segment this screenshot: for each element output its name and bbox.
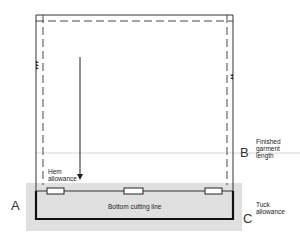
tuck-marker-left [47, 188, 64, 194]
left-notch-icon [36, 61, 39, 69]
tuck-marker-right [205, 188, 222, 194]
arrow-head-icon [77, 174, 83, 180]
hem-allowance-label: Hem allowance [48, 169, 77, 183]
finished-line3: length [256, 153, 281, 160]
tuck-allowance-label: Tuck allowance [256, 202, 285, 216]
hem-label-line2: allowance [48, 176, 77, 183]
tuck-line2: allowance [256, 209, 285, 216]
finished-garment-length-label: Finished garment length [256, 139, 281, 159]
marker-c: C [243, 212, 252, 226]
hem-diagram [0, 0, 300, 237]
bottom-cutting-line-label: Bottom cutting line [108, 204, 161, 211]
tuck-marker-middle [124, 188, 143, 194]
marker-a: A [11, 199, 20, 213]
marker-b: B [240, 146, 249, 160]
